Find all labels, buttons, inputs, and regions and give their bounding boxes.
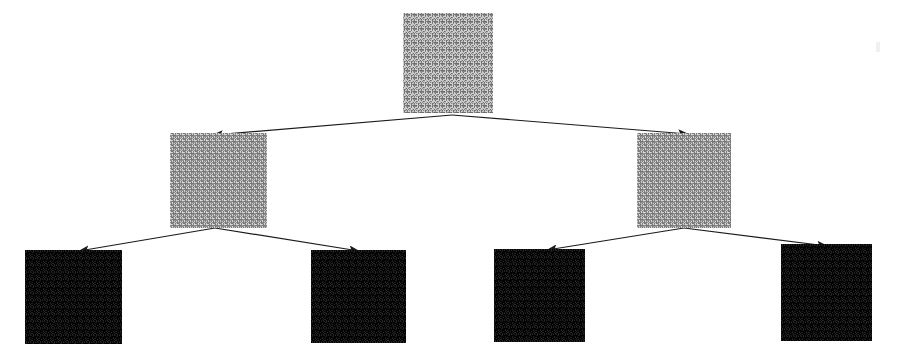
- node-leaf-3: [494, 249, 585, 342]
- scan-artifact-mark: [876, 42, 880, 52]
- edge-left-leaf1: [79, 228, 215, 251]
- tree-diagram: [0, 0, 900, 360]
- node-leaf-2: [311, 250, 406, 343]
- edge-root-left: [213, 115, 452, 135]
- node-internal-left: [170, 133, 267, 228]
- edge-left-leaf2: [215, 228, 359, 251]
- node-internal-right: [637, 133, 731, 228]
- node-root: [403, 13, 493, 113]
- edge-right-leaf3: [547, 228, 684, 250]
- node-leaf-1: [25, 250, 122, 344]
- node-leaf-4: [781, 244, 872, 341]
- edge-root-right: [452, 115, 688, 134]
